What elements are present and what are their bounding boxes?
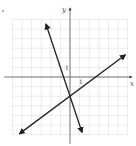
plotted-lines — [20, 24, 126, 133]
steep-line — [46, 24, 82, 132]
x-unit-label: 1 — [79, 78, 83, 85]
y-axis-label: y — [61, 6, 67, 14]
axes: x y 1 1 — [4, 6, 134, 144]
y-unit-label: 1 — [65, 64, 69, 71]
x-axis-label: x — [130, 80, 134, 88]
coordinate-plane: x y 1 1 — [0, 0, 136, 146]
shallow-line — [20, 55, 126, 134]
